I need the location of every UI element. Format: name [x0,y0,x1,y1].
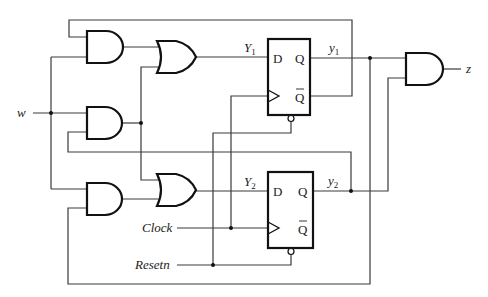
label-y2: y2 [326,173,338,190]
flip-flop-1: D Q Q [268,39,310,122]
wire-clock-ff1 [231,96,268,228]
label-Y1: Y1 [244,40,256,57]
wire-resetn [177,255,291,265]
or-gate-top [157,41,196,73]
label-Y1-sub: 1 [251,47,256,57]
junction-y1 [368,56,372,60]
and-gate-top [87,31,123,63]
input-label-w: w [17,105,26,120]
wire-and-middle-to-or-top [141,67,160,180]
junction-clock [229,226,233,230]
ff1-reset-bubble [288,116,294,122]
label-Y2: Y2 [244,174,256,191]
junction-resetn [211,263,215,267]
wire-y2 [313,78,406,191]
output-label-z: z [465,61,471,76]
input-label-clock: Clock [142,220,173,235]
ff2-d-pin: D [273,184,282,199]
ff1-d-pin: D [273,51,282,66]
or-gate-bottom [157,174,196,206]
ff2-qbar-pin: Q [298,222,308,237]
ff2-reset-bubble [288,249,294,255]
flip-flop-2: D Q Q [268,172,313,255]
label-y2-sub: 2 [334,180,339,190]
and-gate-bottom [87,183,122,215]
junctions [49,56,372,267]
ff1-q-pin: Q [295,51,305,66]
junction-y2 [349,189,353,193]
and-gate-output [406,53,443,85]
and-gate-middle [87,107,122,139]
circuit-diagram: D Q Q D Q Q w Clock Resetn z Y1 Y2 y1 y2 [0,0,488,297]
junction-w [49,111,53,115]
input-label-resetn: Resetn [134,257,170,272]
label-y1: y1 [327,40,339,57]
label-Y2-sub: 2 [251,181,256,191]
labels: w Clock Resetn z Y1 Y2 y1 y2 [17,40,471,272]
ff1-qbar-pin: Q [295,90,305,105]
wire-y1-to-and-bottom [68,58,370,284]
ff2-q-pin: Q [298,184,308,199]
label-y1-sub: 1 [335,47,340,57]
junction-and-middle [139,121,143,125]
